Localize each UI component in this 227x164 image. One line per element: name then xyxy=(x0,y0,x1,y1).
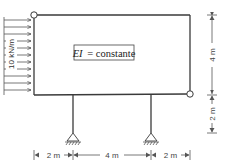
dim-vertical-4m: 4 m xyxy=(208,48,217,62)
dim-vertical-2m: 2 m xyxy=(208,107,217,121)
svg-text:EI = constante: EI = constante xyxy=(72,48,136,59)
distributed-load: 10 kN/m xyxy=(4,17,31,95)
dim-horizontal-4m: 4 m xyxy=(105,151,119,160)
bottom-right-hinge xyxy=(187,91,193,97)
frame xyxy=(31,12,193,133)
dim-horizontal-2m-left: 2 m xyxy=(47,151,61,160)
horizontal-dimensions: 2 m 4 m 2 m xyxy=(34,150,190,160)
vertical-dimensions: 4 m 2 m xyxy=(207,15,217,133)
stiffness-symbol: EI xyxy=(72,48,83,59)
load-label: 10 kN/m xyxy=(7,39,16,69)
dim-horizontal-2m-right: 2 m xyxy=(164,151,178,160)
stiffness-text: = constante xyxy=(87,48,136,59)
top-left-hinge xyxy=(31,12,37,18)
bottom-beam xyxy=(34,94,187,95)
left-pin-support xyxy=(65,133,81,145)
frame-diagram: 10 kN/m EI = constante xyxy=(0,0,227,164)
stiffness-label: EI = constante xyxy=(72,45,136,60)
right-pin-support xyxy=(143,133,159,145)
